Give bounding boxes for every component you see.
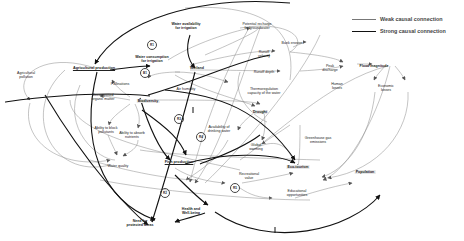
- label-line: for groundwater: [242, 26, 271, 30]
- node-ecotourism: Eco-tourism: [287, 165, 310, 169]
- node-educational-opportunities: Educationalopportunities: [287, 189, 308, 197]
- label-line: losses: [378, 88, 394, 92]
- node-bank-erosion: Bank erosion: [282, 41, 303, 45]
- node-decomposed-organic-matter: Decomposedorganic matter: [92, 93, 115, 101]
- label-line: losses: [331, 86, 343, 90]
- loop-r2: R2: [160, 188, 170, 198]
- label-line: value: [239, 176, 259, 180]
- node-population: Population: [355, 170, 376, 174]
- node-air-humidity: Air humidity: [177, 87, 196, 91]
- label-line: capacity of the water: [248, 91, 281, 95]
- label-line: pollutants: [95, 130, 118, 134]
- node-water-availability: Water availabilityfor irrigation: [171, 22, 200, 30]
- legend-weak: Weak causal connection: [352, 13, 446, 25]
- node-agricultural-pollution: Agriculturalpollution: [17, 71, 35, 79]
- node-pollinations: Pollinations: [111, 82, 129, 86]
- node-health-wellbeing: Health andWell-being: [182, 207, 200, 215]
- node-need-protected-areas: Need forprotected areas: [127, 219, 154, 227]
- label-line: opportunities: [287, 193, 308, 197]
- node-ability-block-pollutants: Ability to blockpollutants: [95, 126, 118, 134]
- label-line: velocity: [258, 54, 270, 58]
- label-line: protected areas: [127, 223, 154, 227]
- node-recreational-value: Recreationalvalue: [239, 172, 259, 180]
- label-line: for irrigation: [171, 26, 200, 30]
- strong-line-swatch: [352, 31, 376, 32]
- weak-line-swatch: [352, 19, 376, 20]
- node-water-consumption: Water consumptionfor irrigation: [135, 55, 168, 63]
- label-line: Well-being: [182, 211, 200, 215]
- node-potential-recharge: Potential rechargefor groundwater: [242, 22, 271, 30]
- legend: Weak causal connection Strong causal con…: [352, 13, 446, 37]
- node-fish-production: Fish production: [165, 160, 194, 164]
- loop-r1: R1: [147, 40, 157, 50]
- loop-b1: B1: [140, 68, 150, 78]
- node-greenhouse-gas-emissions: Greenhouse gasemissions: [305, 136, 332, 144]
- legend-weak-label: Weak causal connection: [380, 16, 443, 22]
- label-line: organic matter: [92, 97, 115, 101]
- node-economic-losses: Economiclosses: [378, 84, 394, 92]
- label-line: warming: [249, 147, 263, 151]
- label-line: emissions: [305, 140, 332, 144]
- delay-marks: [193, 107, 275, 233]
- label-line: drinking water: [208, 129, 230, 133]
- node-runoff-depth: Runoff depth: [254, 70, 275, 74]
- node-biodiversity: Biodiversity: [137, 99, 160, 103]
- node-human-losses: Humanlosses: [331, 82, 343, 90]
- label-line: pollution: [17, 75, 35, 79]
- loop-r3: R3: [174, 114, 184, 124]
- legend-strong: Strong causal connection: [352, 25, 446, 37]
- strong-connections: [5, 2, 380, 233]
- loop-r4: R4: [196, 132, 206, 142]
- node-thermoregulation: Thermoregulationcapacity of the water: [248, 87, 281, 95]
- node-availability-drinking-water: Availability ofdrinking water: [208, 125, 230, 133]
- label-line: nutrients: [119, 135, 145, 139]
- node-agricultural-production: Agricultural production: [73, 66, 115, 70]
- legend-strong-label: Strong causal connection: [380, 28, 446, 34]
- node-peak-discharge: Peakdischarge: [322, 64, 338, 72]
- label-line: discharge: [322, 68, 338, 72]
- node-drought: Drought: [252, 110, 268, 114]
- node-flood-magnitude: Flood magnitude: [360, 64, 389, 68]
- weak-connections: [24, 7, 408, 200]
- node-water-quality: Water quality: [108, 164, 129, 168]
- node-global-warming: Globalwarming: [249, 143, 263, 151]
- loop-r5: R5: [230, 183, 240, 193]
- label-line: for irrigation: [135, 59, 168, 63]
- node-runoff-velocity: Runoffvelocity: [258, 50, 270, 58]
- node-wetland: Wetland: [190, 66, 204, 70]
- node-ability-absorb-nutrients: Ability to absorbnutrients: [119, 131, 145, 139]
